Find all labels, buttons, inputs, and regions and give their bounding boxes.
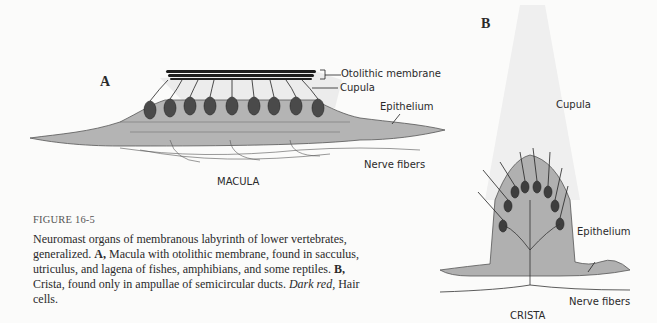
panel-a-letter: A [100,74,110,90]
caption-b-label: B, [334,262,345,276]
otolithic-membrane-label: Otolithic membrane [341,68,441,79]
nerve-fibers-label-a: Nerve fibers [364,159,425,170]
crista-title: CRISTA [510,310,545,321]
caption-a-label: A, [94,247,106,261]
macula-title: MACULA [217,176,259,187]
figure-caption: Neuromast organs of membranous labyrinth… [33,232,363,307]
caption-dark-red-label: Dark red, [289,277,335,291]
panel-b-letter: B [481,16,490,32]
figure-number: FIGURE 16-5 [33,214,95,225]
epithelium-label-a: Epithelium [380,101,434,112]
epithelium-label-b: Epithelium [577,226,631,237]
nerve-fibers-label-b: Nerve fibers [569,296,630,307]
caption-b-text: Crista, found only in ampullae of semici… [33,277,289,291]
cupula-label-b: Cupula [556,99,591,110]
cupula-label-a: Cupula [340,82,375,93]
